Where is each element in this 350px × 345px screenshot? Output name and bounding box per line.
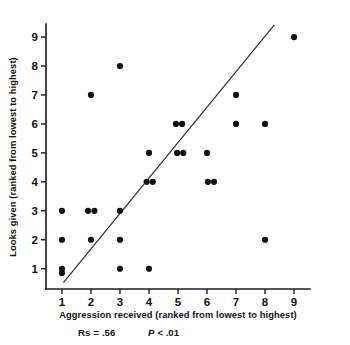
data-point bbox=[262, 121, 268, 127]
x-tick-label: 7 bbox=[233, 296, 239, 308]
data-point bbox=[233, 92, 239, 98]
y-axis: 123456789 bbox=[32, 24, 46, 289]
data-point bbox=[291, 34, 297, 40]
y-tick-label: 1 bbox=[32, 263, 39, 275]
rs-statistic: Rs=.56 bbox=[78, 327, 115, 338]
data-point bbox=[180, 150, 186, 156]
x-tick-label: 4 bbox=[146, 296, 153, 308]
data-point bbox=[117, 266, 123, 272]
data-points-group bbox=[59, 34, 297, 276]
x-axis: 123456789 bbox=[46, 289, 310, 308]
y-tick-label: 5 bbox=[32, 147, 39, 159]
y-tick-label: 9 bbox=[32, 31, 38, 43]
y-tick-label: 7 bbox=[32, 89, 38, 101]
data-point bbox=[150, 179, 156, 185]
data-point bbox=[88, 92, 94, 98]
data-point bbox=[117, 63, 123, 69]
y-tick-label: 8 bbox=[32, 60, 39, 72]
data-point bbox=[233, 121, 239, 127]
data-point bbox=[117, 237, 123, 243]
y-tick-label: 3 bbox=[32, 205, 38, 217]
data-point bbox=[88, 237, 94, 243]
x-tick-label: 6 bbox=[204, 296, 210, 308]
data-point bbox=[146, 266, 152, 272]
regression-line-group bbox=[63, 25, 274, 283]
data-point bbox=[204, 150, 210, 156]
x-tick-label: 1 bbox=[59, 296, 66, 308]
data-point bbox=[91, 208, 97, 214]
data-point bbox=[85, 208, 91, 214]
scatter-plot-canvas: 123456789 123456789 Aggression received … bbox=[0, 0, 350, 345]
data-point bbox=[205, 179, 211, 185]
x-tick-label: 3 bbox=[117, 296, 123, 308]
y-tick-label: 2 bbox=[32, 234, 38, 246]
data-point bbox=[211, 179, 217, 185]
x-axis-label: Aggression received (ranked from lowest … bbox=[59, 310, 297, 320]
statistics-annotation: Rs=.56 P< .01 bbox=[78, 327, 180, 338]
data-point bbox=[179, 121, 185, 127]
y-axis-ticks: 123456789 bbox=[32, 31, 46, 275]
p-value-statistic: P< .01 bbox=[148, 327, 180, 338]
x-tick-label: 5 bbox=[175, 296, 182, 308]
data-point bbox=[262, 237, 268, 243]
x-axis-ticks: 123456789 bbox=[59, 289, 297, 308]
data-point bbox=[174, 150, 180, 156]
x-tick-label: 2 bbox=[88, 296, 94, 308]
regression-line bbox=[63, 25, 274, 283]
x-tick-label: 8 bbox=[262, 296, 269, 308]
data-point bbox=[59, 237, 65, 243]
data-point bbox=[144, 179, 150, 185]
data-point bbox=[117, 208, 123, 214]
data-point bbox=[173, 121, 179, 127]
y-tick-label: 6 bbox=[32, 118, 38, 130]
scatter-plot-figure: 123456789 123456789 Aggression received … bbox=[0, 0, 350, 345]
x-tick-label: 9 bbox=[291, 296, 297, 308]
data-point bbox=[59, 208, 65, 214]
data-point bbox=[146, 150, 152, 156]
y-tick-label: 4 bbox=[32, 176, 39, 188]
data-point bbox=[59, 270, 65, 276]
y-axis-label: Looks given (ranked from lowest to highe… bbox=[8, 57, 18, 257]
